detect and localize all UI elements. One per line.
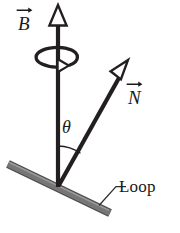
rotation-ellipse-left xyxy=(36,47,58,67)
b-vector-letter: B xyxy=(18,13,30,34)
b-vector-label: B xyxy=(18,14,30,33)
b-vector-arrow xyxy=(49,5,66,187)
rotation-arrowhead-icon xyxy=(58,59,69,72)
physics-diagram-figure: B N θ Loop xyxy=(0,0,180,233)
angle-label: θ xyxy=(62,118,71,136)
n-vector-letter: N xyxy=(128,87,141,108)
n-vector-label: N xyxy=(128,88,141,107)
up-arrowhead-icon xyxy=(49,5,66,26)
vector-arrow-accent-icon xyxy=(16,5,33,13)
loop-label: Loop xyxy=(119,178,156,195)
diagram-canvas xyxy=(0,0,180,233)
vector-arrow-accent-icon xyxy=(126,79,143,87)
diagonal-arrowhead-icon xyxy=(111,60,128,79)
